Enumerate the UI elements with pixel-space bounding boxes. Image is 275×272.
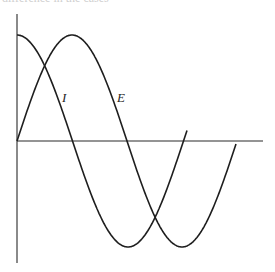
voltage-label: E	[116, 90, 125, 105]
current-label: I	[61, 90, 67, 105]
waveform-diagram: I E	[0, 0, 275, 272]
